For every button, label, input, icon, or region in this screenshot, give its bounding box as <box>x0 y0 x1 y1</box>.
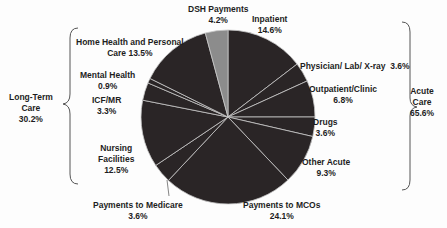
label-physician: Physician/ Lab/ X-ray 3.6% <box>300 61 410 72</box>
leader-line-medicare <box>167 180 169 196</box>
label-acute-care-group: AcuteCare65.6% <box>410 86 434 119</box>
label-inpatient: Inpatient14.6% <box>252 14 287 36</box>
label-payments-medicare: Payments to Medicare3.6% <box>93 200 183 222</box>
label-payments-mcos: Payments to MCOs24.1% <box>243 200 320 222</box>
label-home-health: Home Health and PersonalCare 13.5% <box>76 37 184 59</box>
label-mental-health: Mental Health0.9% <box>80 70 135 92</box>
label-nursing-facilities: NursingFacilities12.5% <box>98 143 134 176</box>
label-dsh-payments: DSH Payments4.2% <box>188 4 248 26</box>
pie-chart-figure: DSH Payments4.2% Inpatient14.6% Physicia… <box>0 0 447 228</box>
label-icf-mr: ICF/MR3.3% <box>92 95 121 117</box>
label-other-acute: Other Acute9.3% <box>302 157 350 179</box>
label-long-term-care-group: Long-TermCare30.2% <box>9 92 53 125</box>
label-drugs: Drugs3.6% <box>313 117 338 139</box>
label-outpatient: Outpatient/Clinic6.8% <box>309 84 377 106</box>
